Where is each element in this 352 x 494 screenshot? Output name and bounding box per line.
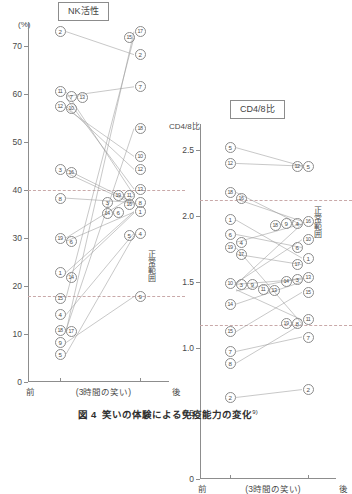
data-point: 4 xyxy=(135,228,146,239)
cd-x-middle: (3時間の笑い) xyxy=(245,482,300,494)
nk-activity-link-9 xyxy=(66,297,134,343)
data-point: 3 xyxy=(102,197,113,208)
nk-activity-link-17 xyxy=(66,32,134,332)
data-point: 17 xyxy=(135,26,146,37)
data-point: 7 xyxy=(135,81,146,92)
data-point: 19 xyxy=(113,190,124,201)
data-point: 15 xyxy=(55,293,66,304)
nk-activity-ytick-label: 30 xyxy=(13,233,22,243)
cd-plot-area: 00.51.01.52.02.5 51218161641917103911131… xyxy=(200,124,330,479)
nk-x-middle: (3時間の笑い) xyxy=(76,385,131,397)
figure-caption-text: 笑いの体験による免疫能力の変化 xyxy=(102,409,252,420)
data-point: 12 xyxy=(292,161,303,172)
nk-activity-ytick-label: 20 xyxy=(13,281,22,291)
nk-activity-ytick-label: 40 xyxy=(13,185,22,195)
data-point: 8 xyxy=(55,193,66,204)
panel-nk-activity: NK活性 (%) 010203040506070 211713121031681… xyxy=(0,0,170,405)
data-point: 2 xyxy=(225,392,236,403)
cd4-8-ratio-ytick-label: 1.5 xyxy=(182,277,194,287)
data-point: 19 xyxy=(225,242,236,253)
cd-x-after: 後 xyxy=(339,482,348,494)
nk-activity-link-12 xyxy=(66,106,134,169)
data-point: 15 xyxy=(124,32,135,43)
nk-activity-ytick-label: 60 xyxy=(13,89,22,99)
data-point: 13 xyxy=(303,272,314,283)
nk-xtick-before xyxy=(60,378,61,382)
cd-axis-unit: CD4/8比 xyxy=(169,120,200,131)
figure-number: 図 4 xyxy=(78,409,96,420)
data-point: 2 xyxy=(303,384,314,395)
data-point: 12 xyxy=(225,158,236,169)
data-point: 2 xyxy=(135,49,146,60)
nk-xtick-after xyxy=(140,378,141,382)
data-point: 4 xyxy=(236,237,247,248)
nk-x-labels: 前 (3時間の笑い) 後 xyxy=(26,385,181,397)
data-point: 2 xyxy=(55,26,66,37)
data-point: 12 xyxy=(55,101,66,112)
cd-normal-range-label: 正常範囲 xyxy=(312,206,320,238)
panel-cd4-8-ratio: CD4/8比 CD4/8比 00.51.01.52.02.5 512181616… xyxy=(168,98,336,405)
data-point: 17 xyxy=(236,249,247,260)
cd-x-before: 前 xyxy=(198,482,207,494)
data-point: 1 xyxy=(303,253,314,264)
data-point: 15 xyxy=(303,287,314,298)
data-point: 18 xyxy=(270,220,281,231)
data-point: 1 xyxy=(225,214,236,225)
data-point: 4 xyxy=(55,309,66,320)
data-point: 5 xyxy=(303,161,314,172)
data-point: 11 xyxy=(258,284,269,295)
data-point: 17 xyxy=(66,326,77,337)
data-point: 9 xyxy=(281,218,292,229)
data-point: 13 xyxy=(135,184,146,195)
data-point: 10 xyxy=(135,151,146,162)
cd-xtick-before xyxy=(230,475,231,479)
data-point: 6 xyxy=(225,229,236,240)
data-point: 14 xyxy=(102,208,113,219)
nk-plot-area: 010203040506070 211713121031681961141541… xyxy=(28,22,163,382)
cd-x-labels: 前 (3時間の笑い) 後 xyxy=(198,482,348,494)
data-point: 17 xyxy=(292,259,303,270)
nk-activity-ytick-label: 10 xyxy=(13,329,22,339)
data-point: 5 xyxy=(225,142,236,153)
nk-activity-link-16 xyxy=(66,173,134,205)
data-point: 13 xyxy=(77,92,88,103)
data-point: 1 xyxy=(55,267,66,278)
cd4-8-ratio-ytick-label: 2.5 xyxy=(182,145,194,155)
data-point: 10 xyxy=(225,278,236,289)
data-point: 15 xyxy=(225,326,236,337)
cd4-8-ratio-link-16 xyxy=(236,199,302,221)
cd4-8-ratio-link-7 xyxy=(236,337,302,351)
data-point: 9 xyxy=(135,291,146,302)
data-point: 3 xyxy=(292,274,303,285)
data-point: 7 xyxy=(225,346,236,357)
data-point: 16 xyxy=(66,167,77,178)
data-point: 8 xyxy=(292,318,303,329)
nk-title-box: NK活性 xyxy=(58,2,109,21)
cd4-8-ratio-link-2 xyxy=(236,390,302,398)
cd4-8-ratio-ytick xyxy=(196,479,200,480)
data-point: 8 xyxy=(225,358,236,369)
cd-connector-lines xyxy=(200,124,330,479)
nk-activity-ytick xyxy=(24,382,28,383)
cd4-8-ratio-ytick-label: 0 xyxy=(189,474,194,484)
data-point: 11 xyxy=(303,314,314,325)
figure-caption: 図 4笑いの体験による免疫能力の変化9) xyxy=(0,407,336,421)
data-point: 3 xyxy=(236,279,247,290)
data-point: 6 xyxy=(292,242,303,253)
data-point: 7 xyxy=(66,91,77,102)
nk-activity-ytick-label: 0 xyxy=(17,377,22,387)
data-point: 6 xyxy=(66,236,77,247)
cd4-8-ratio-ytick-label: 2.0 xyxy=(182,211,194,221)
cd4-8-ratio-link-11 xyxy=(236,290,302,320)
data-point: 3 xyxy=(55,164,66,175)
data-point: 12 xyxy=(135,164,146,175)
nk-normal-range-label: 正常範囲 xyxy=(146,250,154,282)
data-point: 19 xyxy=(55,233,66,244)
data-point: 14 xyxy=(66,272,77,283)
data-point: 13 xyxy=(269,285,280,296)
data-point: 1 xyxy=(135,206,146,217)
figure-reference: 9) xyxy=(252,409,257,415)
data-point: 18 xyxy=(225,187,236,198)
data-point: 18 xyxy=(135,123,146,134)
